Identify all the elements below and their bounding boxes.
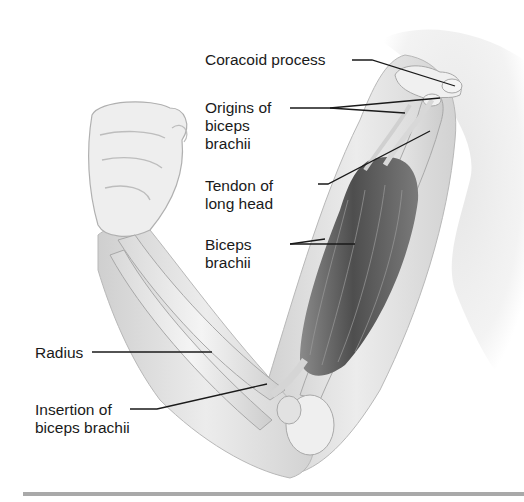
label-origins-of-biceps-brachii: Origins of biceps brachii	[205, 99, 271, 153]
label-radius: Radius	[35, 344, 83, 362]
bottom-divider	[23, 492, 524, 496]
label-tendon-of-long-head: Tendon of long head	[205, 177, 273, 213]
label-insertion-of-biceps-brachii: Insertion of biceps brachii	[35, 401, 130, 437]
label-biceps-brachii: Biceps brachii	[205, 236, 252, 272]
fist	[89, 102, 187, 237]
biceps-anatomy-figure: Coracoid process Origins of biceps brach…	[0, 0, 524, 502]
label-coracoid-process: Coracoid process	[205, 51, 326, 69]
